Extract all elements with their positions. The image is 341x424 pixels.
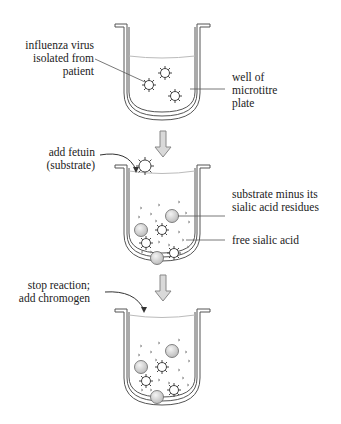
down-arrow-icon <box>155 131 171 157</box>
substrate-ball <box>151 391 164 404</box>
virus-icon <box>139 236 153 250</box>
label-well: well of microtitre plate <box>232 71 277 110</box>
substrate-ball <box>135 361 148 374</box>
substrate-ball <box>166 345 179 358</box>
virus-icon <box>168 89 182 103</box>
virus-icon <box>142 78 156 92</box>
label-free-sialic-acid: free sialic acid <box>232 234 299 247</box>
liquid-surface <box>129 56 195 58</box>
substrate-ball <box>166 210 179 223</box>
substrate-ball <box>151 252 164 265</box>
leader-line <box>95 59 145 82</box>
well-1 <box>95 24 225 120</box>
virus-icon <box>167 383 181 397</box>
virus-icon <box>139 374 153 388</box>
well-2 <box>115 165 225 265</box>
virus-icon <box>158 66 172 80</box>
fetuin-particle-icon <box>136 157 154 175</box>
label-substrate: substrate minus its sialic acid residues <box>232 188 319 214</box>
label-stop-reaction: stop reaction; add chromogen <box>10 279 90 305</box>
virus-icon <box>155 360 169 374</box>
curved-arrow-icon <box>105 292 144 310</box>
well-3 <box>115 309 210 405</box>
label-influenza-virus: influenza virus isolated from patient <box>10 39 94 78</box>
virus-icon <box>167 246 181 260</box>
liquid-surface <box>129 315 195 318</box>
down-arrow-icon <box>155 275 171 301</box>
label-add-fetuin: add fetuin (substrate) <box>10 146 95 172</box>
virus-icon <box>155 223 169 237</box>
substrate-ball <box>135 224 148 237</box>
